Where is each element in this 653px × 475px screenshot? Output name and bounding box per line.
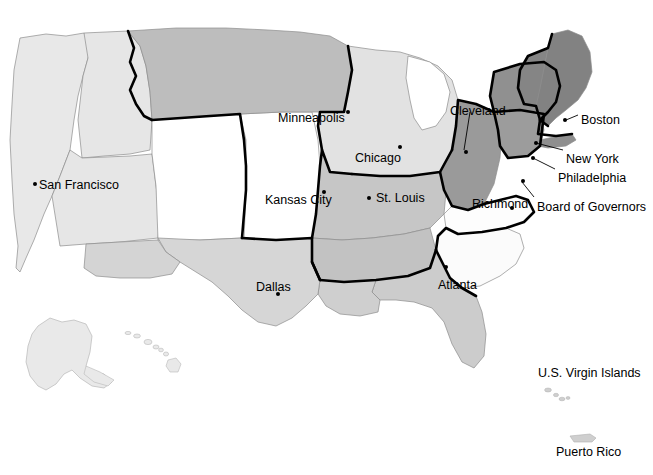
district-kansas-city — [152, 114, 248, 240]
city-label-san-francisco: San Francisco — [39, 179, 119, 192]
region-us-virgin-islands — [545, 388, 570, 401]
map-canvas — [0, 0, 653, 475]
leader-philadelphia — [533, 158, 555, 169]
city-label-cleveland: Cleveland — [450, 105, 506, 118]
city-label-minneapolis: Minneapolis — [278, 112, 345, 125]
city-label-st-louis: St. Louis — [376, 192, 425, 205]
city-label-board-of-governors: Board of Governors — [537, 201, 646, 214]
district-dallas — [158, 238, 320, 326]
city-label-richmond: Richmond — [472, 198, 528, 211]
federal-reserve-districts-map: San Francisco Minneapolis Kansas City Da… — [0, 0, 653, 475]
subregion-gulf-coast — [318, 280, 380, 316]
city-dot-new-york — [534, 141, 538, 145]
city-label-chicago: Chicago — [355, 152, 401, 165]
region-hawaii — [125, 331, 181, 372]
city-label-kansas-city: Kansas City — [265, 194, 332, 207]
subregion-kc-plains — [240, 112, 320, 240]
district-regions — [10, 28, 596, 442]
city-dot-st-louis — [367, 196, 371, 200]
city-dot-chicago — [398, 145, 402, 149]
city-label-dallas: Dallas — [256, 281, 291, 294]
city-dot-philadelphia — [531, 156, 535, 160]
territory-label-puerto-rico: Puerto Rico — [556, 446, 621, 459]
district-minneapolis — [128, 28, 352, 120]
city-dot-board-of-governors — [521, 179, 525, 183]
city-dot-boston — [563, 118, 567, 122]
city-label-atlanta: Atlanta — [438, 279, 477, 292]
city-label-philadelphia: Philadelphia — [558, 172, 626, 185]
city-dot-minneapolis — [346, 110, 350, 114]
subregion-sf-southwest — [52, 150, 160, 246]
city-dot-atlanta — [444, 265, 448, 269]
district-boston — [536, 30, 592, 126]
leader-board-of-governors — [522, 182, 534, 197]
leader-boston — [566, 115, 578, 120]
city-label-boston: Boston — [581, 114, 620, 127]
city-label-new-york: New York — [566, 153, 619, 166]
territory-label-us-virgin-islands: U.S. Virgin Islands — [538, 367, 641, 380]
region-puerto-rico — [570, 434, 596, 442]
city-dot-cleveland — [464, 150, 468, 154]
city-dot-san-francisco — [33, 182, 37, 186]
